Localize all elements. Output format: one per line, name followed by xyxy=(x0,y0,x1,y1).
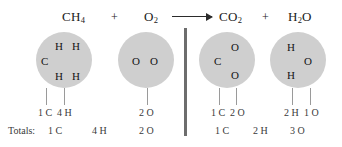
atom-water-h1: H xyxy=(287,42,295,53)
formula-methane: CH4 xyxy=(62,10,85,25)
atom-methane-h3: H xyxy=(55,71,63,82)
count-co2-oxygen: 2 O xyxy=(230,108,245,118)
formula-water-hydrogen: H xyxy=(288,9,298,24)
atom-methane-h1: H xyxy=(55,41,63,52)
total-product-hydrogen: 2 H xyxy=(253,126,268,136)
plus-sign-products: + xyxy=(262,11,269,23)
tick-methane-hydrogen xyxy=(64,88,65,105)
formula-methane-subscript: 4 xyxy=(81,15,85,25)
atom-oxygen-o1: O xyxy=(132,56,140,67)
count-water-oxygen: 1 O xyxy=(304,108,319,118)
formula-carbon-dioxide-subscript: 2 xyxy=(238,15,242,25)
count-methane-hydrogen: 4 H xyxy=(57,108,72,118)
atom-oxygen-o2: O xyxy=(150,56,158,67)
tick-methane-carbon xyxy=(46,88,47,105)
equation-diagram: CH4 + O2 CO2 + H2O H H C H H 1 C 4 H O O… xyxy=(0,0,342,147)
atom-methane-h2: H xyxy=(72,41,80,52)
formula-oxygen: O2 xyxy=(144,10,158,25)
formula-oxygen-subscript: 2 xyxy=(154,15,158,25)
total-product-oxygen: 3 O xyxy=(290,126,305,136)
formula-methane-element: CH xyxy=(62,9,81,24)
plus-sign-reactants: + xyxy=(111,11,118,23)
tick-co2-oxygen xyxy=(236,88,237,105)
formula-oxygen-element: O xyxy=(144,9,154,24)
atom-water-o: O xyxy=(304,56,312,67)
total-product-carbon: 1 C xyxy=(215,126,229,136)
atom-water-h2: H xyxy=(287,70,295,81)
molecule-methane: H H C H H xyxy=(36,32,92,88)
total-reactant-carbon: 1 C xyxy=(48,126,62,136)
atom-co2-c: C xyxy=(214,56,221,67)
tick-water-oxygen xyxy=(310,88,311,105)
formula-water: H2O xyxy=(288,10,312,25)
tick-oxygen xyxy=(147,88,148,105)
formula-water-oxygen: O xyxy=(302,9,312,24)
atom-co2-o1: O xyxy=(231,42,239,53)
atom-methane-h4: H xyxy=(72,71,80,82)
formula-carbon-dioxide: CO2 xyxy=(219,10,242,25)
yields-arrow-icon xyxy=(172,12,212,22)
atom-methane-c: C xyxy=(41,56,48,67)
count-methane-carbon: 1 C xyxy=(38,108,52,118)
molecule-carbon-dioxide: O C O xyxy=(199,32,255,88)
formula-carbon-dioxide-element: CO xyxy=(219,9,238,24)
tick-water-hydrogen xyxy=(292,88,293,105)
count-water-hydrogen: 2 H xyxy=(284,108,299,118)
atom-co2-o2: O xyxy=(231,70,239,81)
totals-label: Totals: xyxy=(8,126,35,136)
molecule-oxygen: O O xyxy=(118,32,174,88)
count-oxygen: 2 O xyxy=(139,108,154,118)
arrow-head xyxy=(206,13,213,21)
tick-co2-carbon xyxy=(219,88,220,105)
total-reactant-oxygen: 2 O xyxy=(139,126,154,136)
equation-divider xyxy=(184,28,187,136)
count-co2-carbon: 1 C xyxy=(211,108,225,118)
total-reactant-hydrogen: 4 H xyxy=(92,126,107,136)
molecule-water: H O H xyxy=(270,32,326,88)
